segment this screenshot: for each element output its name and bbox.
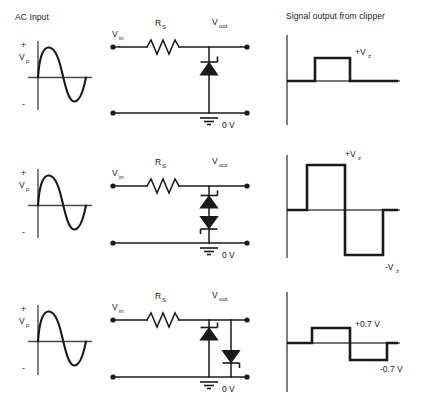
output-clipped-waveform-1 bbox=[287, 58, 398, 81]
vout-sub-2: out bbox=[219, 162, 228, 168]
input-plus-sign-3: + bbox=[21, 304, 26, 314]
input-sine-waveform-3 bbox=[38, 311, 86, 365]
zener-triangle-1-row-1 bbox=[201, 63, 218, 76]
input-vp-sub-3: p bbox=[26, 322, 30, 328]
input-graph-2: + V p - bbox=[19, 168, 92, 238]
resistor-rs-1 bbox=[147, 40, 179, 54]
circuit-2: V in V out R S bbox=[110, 156, 249, 260]
circuit-3: V in V out R S bbox=[110, 290, 249, 394]
ground-symbol-2 bbox=[200, 248, 218, 255]
input-minus-sign-2: - bbox=[22, 227, 25, 237]
row-2: + V p - V in V out R S bbox=[19, 149, 400, 274]
ground-label-1: 0 V bbox=[222, 120, 235, 130]
rs-sub-2: S bbox=[162, 163, 166, 169]
vin-label-3: V bbox=[112, 302, 118, 312]
zener-triangle-2-row-3 bbox=[223, 351, 240, 363]
ground-symbol-1 bbox=[200, 118, 218, 125]
output-clipped-waveform-3 bbox=[287, 328, 398, 360]
output-graph-2: +V z -V z bbox=[287, 149, 400, 274]
rs-label-3: R bbox=[155, 291, 161, 301]
zener-triangle-2-row-2 bbox=[201, 217, 218, 229]
vout-sub-1: out bbox=[219, 23, 228, 29]
input-vp-label-3: V bbox=[19, 316, 25, 326]
vin-label-1: V bbox=[112, 29, 118, 39]
input-graph-1: + V p - bbox=[19, 40, 92, 110]
ground-label-3: 0 V bbox=[222, 384, 235, 394]
input-vp-sub-2: p bbox=[26, 186, 30, 192]
output-upper-sub-2: z bbox=[358, 155, 361, 161]
input-plus-sign-2: + bbox=[21, 168, 26, 178]
vout-sub-3: out bbox=[219, 296, 228, 302]
output-lower-sub-2: z bbox=[396, 268, 399, 274]
zener-triangle-1-row-3 bbox=[201, 328, 218, 340]
zener-triangle-1-row-2 bbox=[201, 196, 218, 208]
ground-symbol-3 bbox=[200, 382, 218, 389]
clipper-circuits-diagram: AC Input Signal output from clipper + V … bbox=[0, 0, 432, 411]
vin-label-2: V bbox=[112, 168, 118, 178]
input-plus-sign-1: + bbox=[21, 40, 26, 50]
circuit-1: V in V out R S bbox=[110, 17, 249, 130]
input-vp-sub-1: p bbox=[26, 58, 30, 64]
vout-label-3: V bbox=[212, 290, 218, 300]
rs-sub-1: S bbox=[162, 24, 166, 30]
rs-sub-3: S bbox=[162, 297, 166, 303]
output-upper-label-1: +V bbox=[355, 47, 366, 57]
vin-sub-2: in bbox=[119, 174, 124, 180]
output-upper-label-3: +0.7 V bbox=[355, 319, 380, 329]
input-vp-label-1: V bbox=[19, 52, 25, 62]
output-lower-label-2: -V bbox=[385, 262, 394, 272]
ground-label-2: 0 V bbox=[222, 250, 235, 260]
input-minus-sign-1: - bbox=[22, 99, 25, 109]
output-lower-label-3: -0.7 V bbox=[380, 364, 403, 374]
rs-label-1: R bbox=[155, 18, 161, 28]
output-upper-sub-1: z bbox=[368, 53, 371, 59]
input-vp-label-2: V bbox=[19, 180, 25, 190]
output-graph-1: +V z bbox=[287, 35, 400, 125]
resistor-rs-2 bbox=[147, 179, 179, 193]
vout-label-1: V bbox=[212, 17, 218, 27]
input-graph-3: + V p - bbox=[19, 304, 92, 375]
input-minus-sign-3: - bbox=[22, 363, 25, 373]
diagram-canvas: + V p - V in V out R S bbox=[0, 0, 432, 411]
input-sine-waveform-1 bbox=[38, 47, 86, 101]
resistor-rs-3 bbox=[147, 313, 179, 327]
row-3: + V p - V in V out R S bbox=[19, 290, 403, 394]
output-graph-3: +0.7 V -0.7 V bbox=[287, 292, 403, 392]
vin-sub-3: in bbox=[119, 308, 124, 314]
output-upper-label-2: +V bbox=[345, 149, 356, 159]
input-sine-waveform-2 bbox=[38, 175, 86, 229]
vin-sub-1: in bbox=[119, 35, 124, 41]
rs-label-2: R bbox=[155, 157, 161, 167]
row-1: + V p - V in V out R S bbox=[19, 17, 400, 130]
vout-label-2: V bbox=[212, 156, 218, 166]
